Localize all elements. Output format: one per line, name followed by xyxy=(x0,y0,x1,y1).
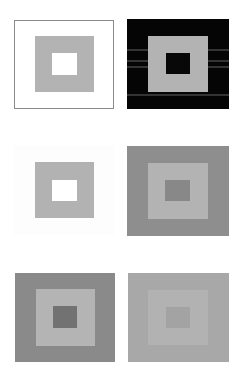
panel-5-inner-square xyxy=(53,306,77,328)
panel-6-outer-square xyxy=(128,273,229,362)
panel-4-outer-square xyxy=(127,146,229,236)
panel-1-outer-square xyxy=(14,20,114,109)
panel-3-middle-square xyxy=(35,162,94,218)
panel-4-middle-square xyxy=(148,163,208,219)
panel-6-inner-square xyxy=(166,307,190,328)
panel-6-middle-square xyxy=(148,290,208,345)
panel-2-outer-square xyxy=(127,19,229,109)
panel-5-middle-square xyxy=(36,289,95,346)
panel-4-inner-square xyxy=(165,180,190,201)
panel-2-inner-square xyxy=(166,53,190,74)
panel-1-middle-square xyxy=(35,36,94,92)
panel-3-outer-square xyxy=(14,145,114,235)
panel-3-inner-square xyxy=(52,180,77,201)
scan-streak xyxy=(127,94,229,96)
panel-5-outer-square xyxy=(15,273,115,362)
panel-2-middle-square xyxy=(148,36,208,92)
panel-1-inner-square xyxy=(52,53,77,75)
